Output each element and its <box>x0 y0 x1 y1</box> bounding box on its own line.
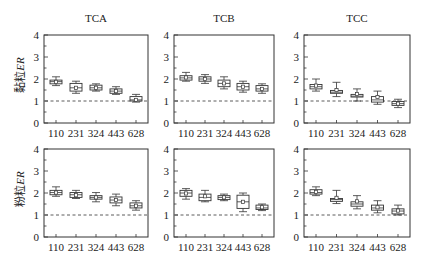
panel-tcc-clay: 01234110231324443628 <box>294 29 411 139</box>
mean-marker <box>54 80 57 83</box>
box-443 <box>110 87 122 95</box>
x-tick-label: 231 <box>197 127 214 139</box>
mean-marker <box>94 86 97 89</box>
box-628 <box>130 94 142 102</box>
x-tick-label: 443 <box>108 241 125 253</box>
x-tick-label: 231 <box>68 241 85 253</box>
mean-marker <box>114 198 117 201</box>
box-231 <box>199 190 211 201</box>
box-628 <box>256 84 268 93</box>
x-tick-label: 110 <box>48 241 65 253</box>
x-tick-label: 628 <box>254 127 271 139</box>
box-628 <box>392 99 404 107</box>
x-tick-label: 443 <box>369 241 386 253</box>
y-tick-label: 4 <box>164 143 170 155</box>
box-628 <box>256 204 268 211</box>
box-324 <box>90 84 102 91</box>
y-tick-label: 1 <box>294 95 300 107</box>
x-tick-label: 628 <box>254 241 271 253</box>
x-tick-label: 324 <box>88 127 105 139</box>
box-110 <box>310 79 322 91</box>
x-tick-label: 231 <box>68 127 85 139</box>
mean-marker <box>114 90 117 93</box>
x-tick-label: 443 <box>108 127 125 139</box>
box-324 <box>90 193 102 202</box>
y-tick-label: 2 <box>294 187 300 199</box>
mean-marker <box>222 196 225 199</box>
mean-marker <box>94 196 97 199</box>
mean-marker <box>260 206 263 209</box>
mean-marker <box>241 200 244 203</box>
y-tick-label: 3 <box>164 51 170 63</box>
x-tick-label: 628 <box>390 241 407 253</box>
mean-marker <box>134 204 137 207</box>
panel-tca-silt: 01234110231324443628 <box>34 143 149 253</box>
mean-marker <box>203 77 206 80</box>
x-tick-label: 628 <box>128 127 145 139</box>
box-443 <box>110 194 122 206</box>
y-tick-label: 0 <box>34 117 40 129</box>
panel-tcb-clay: 01234110231324443628 <box>164 29 275 139</box>
column-title-tca: TCA <box>85 12 107 24</box>
y-tick-label: 0 <box>294 231 300 243</box>
mean-marker <box>335 88 338 91</box>
x-tick-label: 110 <box>308 241 325 253</box>
box-110 <box>50 187 62 196</box>
x-tick-label: 324 <box>216 127 233 139</box>
box-324 <box>218 77 230 89</box>
y-tick-label: 0 <box>34 231 40 243</box>
box-110 <box>180 72 192 81</box>
y-tick-label: 2 <box>294 73 300 85</box>
column-title-tcc: TCC <box>346 12 367 24</box>
y-tick-label: 3 <box>34 165 40 177</box>
mean-marker <box>314 84 317 87</box>
box-443 <box>237 81 249 92</box>
y-tick-label: 3 <box>294 51 300 63</box>
y-tick-label: 1 <box>34 95 40 107</box>
y-tick-label: 4 <box>294 29 300 41</box>
row-label-1: 粉粒ER <box>13 171 26 207</box>
y-tick-label: 3 <box>294 165 300 177</box>
mean-marker <box>184 192 187 195</box>
x-tick-label: 110 <box>178 127 195 139</box>
x-tick-label: 628 <box>390 127 407 139</box>
box-443 <box>237 193 249 212</box>
y-tick-label: 0 <box>164 117 170 129</box>
row-label-0: 黏粒ER <box>13 57 26 93</box>
mean-marker <box>396 209 399 212</box>
mean-marker <box>222 82 225 85</box>
panel-tca-clay: 01234110231324443628 <box>34 29 149 139</box>
box-628 <box>392 205 404 215</box>
mean-marker <box>355 92 358 95</box>
row-label-prefix: 黏粒 <box>13 71 26 93</box>
row-label-italic: ER <box>14 171 26 186</box>
x-tick-label: 324 <box>349 241 366 253</box>
x-tick-label: 324 <box>349 127 366 139</box>
x-tick-label: 443 <box>235 127 252 139</box>
box-231 <box>331 190 343 203</box>
box-628 <box>130 201 142 210</box>
mean-marker <box>241 85 244 88</box>
y-tick-label: 4 <box>34 143 40 155</box>
y-tick-label: 1 <box>164 209 170 221</box>
mean-marker <box>376 206 379 209</box>
box-231 <box>70 81 82 93</box>
box-231 <box>199 75 211 84</box>
y-tick-label: 1 <box>34 209 40 221</box>
x-tick-label: 324 <box>88 241 105 253</box>
x-tick-label: 628 <box>128 241 145 253</box>
y-tick-label: 3 <box>164 165 170 177</box>
x-tick-label: 231 <box>197 241 214 253</box>
mean-marker <box>203 195 206 198</box>
x-tick-label: 324 <box>216 241 233 253</box>
mean-marker <box>134 98 137 101</box>
box-110 <box>180 189 192 200</box>
column-title-tcb: TCB <box>213 12 234 24</box>
box-443 <box>372 91 384 104</box>
y-tick-label: 4 <box>34 29 40 41</box>
y-tick-label: 0 <box>164 231 170 243</box>
box-324 <box>351 89 363 101</box>
row-label-prefix: 粉粒 <box>13 185 26 207</box>
y-tick-label: 1 <box>164 95 170 107</box>
y-tick-label: 2 <box>34 187 40 199</box>
